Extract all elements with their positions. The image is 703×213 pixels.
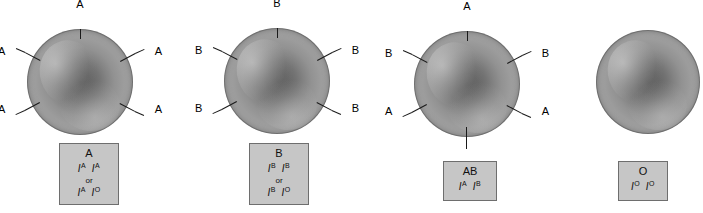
antigen-leader-line: [403, 50, 412, 55]
antigen-leader-line: [134, 111, 143, 116]
allele-1: IA: [459, 181, 467, 192]
antigen-leader-line: [135, 49, 144, 54]
cell-membrane-rim: [596, 30, 700, 134]
red-blood-cell-b: [224, 28, 330, 134]
allele-2-superscript: O: [95, 186, 101, 193]
antigen-tick: [467, 31, 468, 41]
allele-2-superscript: B: [476, 180, 481, 187]
red-blood-cell-o: [596, 30, 700, 134]
genotype-line: IO IO: [619, 180, 667, 193]
genotype-line: IA IO: [60, 186, 118, 199]
genotype-line: IA IB: [444, 180, 496, 193]
red-blood-cell-ab: [414, 31, 520, 137]
allele-2-superscript: O: [285, 186, 291, 193]
cell-membrane-rim: [224, 28, 330, 134]
allele-2: IB: [473, 181, 481, 192]
antigen-label: A: [352, 106, 392, 117]
antigen-label: A: [60, 0, 100, 10]
allele-1: IB: [267, 187, 275, 198]
antigen-label: A: [447, 1, 487, 12]
allele-2-superscript: B: [285, 162, 290, 169]
genotype-box-o: OIO IO: [618, 161, 668, 201]
allele-2: IO: [646, 181, 655, 192]
phenotype-label: B: [250, 147, 308, 160]
antigen-label: A: [0, 46, 5, 57]
genotype-box-a: AIA IAorIA IO: [59, 143, 119, 205]
antigen-label: B: [352, 48, 392, 59]
antigen-leader-line: [331, 110, 340, 115]
allele-1: IA: [78, 163, 86, 174]
allele-2-superscript: O: [649, 180, 655, 187]
antigen-leader-line: [522, 51, 531, 56]
red-blood-cell-a: [27, 29, 133, 135]
allele-1: IA: [77, 187, 85, 198]
genotype-box-b: BIB IBorIB IO: [249, 143, 309, 205]
antigen-leader-line: [16, 110, 25, 115]
phenotype-label: AB: [444, 165, 496, 178]
allele-2: IO: [91, 187, 100, 198]
cell-group-o: OIO IO: [568, 0, 703, 213]
antigen-leader-line: [213, 47, 222, 52]
phenotype-label: A: [60, 147, 118, 160]
cell-group-ab: ABBAABABIA IB: [387, 0, 563, 213]
cell-group-b: BBBBBBIB IBorIB IO: [197, 0, 373, 213]
genotype-line: IA IA: [60, 162, 118, 175]
antigen-leader-line: [521, 113, 530, 118]
antigen-label: B: [162, 45, 202, 56]
allele-2: IO: [281, 187, 290, 198]
cell-membrane-rim: [27, 29, 133, 135]
phenotype-label: O: [619, 165, 667, 178]
genotype-or-text: or: [60, 175, 118, 186]
antigen-tick: [80, 29, 81, 39]
genotype-box-ab: ABIA IB: [443, 161, 497, 201]
genotype-line: IB IB: [250, 162, 308, 175]
antigen-leader-line: [16, 48, 25, 53]
abo-blood-type-figure: AAAAAAIA IAorIA IOBBBBBBIB IBorIB IOABBA…: [0, 0, 703, 213]
antigen-label: A: [0, 104, 5, 115]
allele-2-superscript: A: [95, 162, 100, 169]
antigen-leader-line: [213, 109, 222, 114]
antigen-leader-line: [332, 48, 341, 53]
antigen-tick: [466, 127, 467, 149]
genotype-or-text: or: [250, 175, 308, 186]
antigen-label: B: [257, 0, 297, 9]
allele-2: IA: [92, 163, 100, 174]
allele-1: IO: [631, 181, 640, 192]
allele-2: IB: [282, 163, 290, 174]
antigen-label: B: [162, 103, 202, 114]
cell-membrane-rim: [414, 31, 520, 137]
genotype-line: IB IO: [250, 186, 308, 199]
cell-group-a: AAAAAAIA IAorIA IO: [0, 0, 176, 213]
antigen-tick: [277, 28, 278, 38]
antigen-leader-line: [403, 112, 412, 117]
allele-1: IB: [268, 163, 276, 174]
